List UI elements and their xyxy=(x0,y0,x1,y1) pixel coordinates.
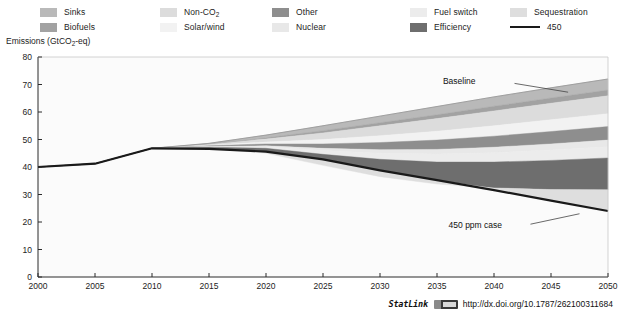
legend-item-sinks[interactable]: Sinks xyxy=(40,6,85,18)
legend-item-label: Efficiency xyxy=(434,22,471,32)
y-axis-tick-label: 20 xyxy=(10,217,32,227)
x-axis-tick-label: 2020 xyxy=(246,281,286,291)
y-axis-tick-label: 70 xyxy=(10,80,32,90)
legend-color-swatch xyxy=(272,23,289,32)
x-axis-tick-label: 2005 xyxy=(75,281,115,291)
legend-item-efficiency[interactable]: Efficiency xyxy=(410,21,471,33)
chart-legend: SinksBiofuelsNon-CO2Solar/windOtherNucle… xyxy=(0,0,621,34)
legend-color-swatch xyxy=(510,8,527,17)
y-axis-tick-label: 50 xyxy=(10,135,32,145)
legend-item-fuel-switch[interactable]: Fuel switch xyxy=(410,6,478,18)
legend-color-swatch xyxy=(272,8,289,17)
legend-item-biofuels[interactable]: Biofuels xyxy=(40,21,95,33)
x-axis-tick-label: 2040 xyxy=(474,281,514,291)
legend-item-label: Non-CO2 xyxy=(184,7,219,18)
legend-item-label: Sinks xyxy=(64,7,85,17)
legend-item-label: Fuel switch xyxy=(434,7,478,17)
x-axis-tick-label: 2010 xyxy=(132,281,172,291)
x-axis-tick-label: 2015 xyxy=(189,281,229,291)
legend-color-swatch xyxy=(160,23,177,32)
legend-item-label: Solar/wind xyxy=(184,22,225,32)
legend-item-solar-wind[interactable]: Solar/wind xyxy=(160,21,225,33)
legend-color-swatch xyxy=(410,23,427,32)
y-axis-tick-label: 10 xyxy=(10,245,32,255)
legend-item-sequestration[interactable]: Sequestration xyxy=(510,6,588,18)
x-axis-tick-label: 2050 xyxy=(588,281,621,291)
legend-item-other[interactable]: Other xyxy=(272,6,318,18)
x-axis-tick-label: 2030 xyxy=(360,281,400,291)
legend-item-label: Biofuels xyxy=(64,22,95,32)
legend-color-swatch xyxy=(40,23,57,32)
statlink-barcode-icon xyxy=(434,300,458,309)
y-axis-tick-label: 40 xyxy=(10,162,32,172)
x-axis-tick-label: 2035 xyxy=(417,281,457,291)
x-axis-tick-label: 2045 xyxy=(531,281,571,291)
legend-item-450[interactable]: 450 xyxy=(510,21,561,33)
legend-color-swatch xyxy=(410,8,427,17)
legend-line-swatch xyxy=(510,26,540,28)
y-axis-tick-label: 30 xyxy=(10,190,32,200)
annotation-baseline: Baseline xyxy=(443,76,476,86)
statlink-url[interactable]: http://dx.doi.org/10.1787/262100311684 xyxy=(463,299,613,309)
legend-item-label: Sequestration xyxy=(534,7,588,17)
y-axis-tick-label: 80 xyxy=(10,52,32,62)
x-axis-tick-label: 2025 xyxy=(303,281,343,291)
statlink-label: StatLink xyxy=(389,299,428,309)
legend-item-non-co2[interactable]: Non-CO2 xyxy=(160,6,219,18)
chart-plot-area: Emissions (GtCO2-eq) 0102030405060708020… xyxy=(0,34,621,292)
x-axis-tick-label: 2000 xyxy=(18,281,58,291)
legend-item-label: Nuclear xyxy=(296,22,326,32)
annotation-450-ppm-case: 450 ppm case xyxy=(449,220,502,230)
legend-item-nuclear[interactable]: Nuclear xyxy=(272,21,326,33)
y-axis-tick-label: 60 xyxy=(10,107,32,117)
legend-item-label: Other xyxy=(296,7,318,17)
statlink-footer: StatLink http://dx.doi.org/10.1787/26210… xyxy=(0,294,621,314)
legend-color-swatch xyxy=(160,8,177,17)
chart-canvas xyxy=(0,34,621,292)
legend-item-label: 450 xyxy=(547,22,561,32)
legend-color-swatch xyxy=(40,8,57,17)
